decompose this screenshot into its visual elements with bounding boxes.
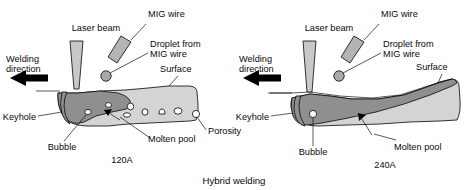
figure-root: Laser beam MIG wire Droplet from MIG wir… xyxy=(0,0,468,190)
label-droplet-line2-240a: MIG wire xyxy=(383,49,420,59)
bubble-120a xyxy=(85,109,91,114)
label-welding-direction-line2-240a: direction xyxy=(239,64,274,74)
laser-beam-240a xyxy=(303,41,316,92)
bubble-240a xyxy=(309,110,316,117)
mig-wire-240a xyxy=(341,36,364,63)
figure-caption: Hybrid welding xyxy=(203,175,266,186)
label-mig-wire-240a: MIG wire xyxy=(381,9,418,19)
label-welding-direction-line1-120a: Welding xyxy=(6,54,39,64)
mig-wire-120a xyxy=(108,36,131,63)
label-welding-direction-line2-120a: direction xyxy=(6,64,41,74)
droplet-240a xyxy=(334,71,344,81)
label-keyhole-240a: Keyhole xyxy=(236,112,269,122)
label-mig-wire-120a: MIG wire xyxy=(148,9,185,19)
leader-mig-wire-120a xyxy=(131,24,146,40)
label-laser-beam-120a: Laser beam xyxy=(72,23,121,33)
label-surface-240a: Surface xyxy=(416,62,448,72)
label-current-120a: 120A xyxy=(111,155,133,165)
label-droplet-line2-120a: MIG wire xyxy=(150,49,187,59)
droplet-120a xyxy=(101,71,111,81)
label-molten-pool-120a: Molten pool xyxy=(148,134,196,144)
label-laser-beam-240a: Laser beam xyxy=(305,23,354,33)
label-bubble-120a: Bubble xyxy=(48,142,77,152)
panel-120a: Laser beam MIG wire Droplet from MIG wir… xyxy=(3,9,242,165)
leader-mig-wire-240a xyxy=(364,24,379,40)
label-welding-direction-line1-240a: Welding xyxy=(239,54,272,64)
leader-surface-120a xyxy=(169,76,178,86)
panel-240a: Laser beam MIG wire Droplet from MIG wir… xyxy=(236,9,460,170)
label-surface-120a: Surface xyxy=(160,64,192,74)
leader-porosity-120a xyxy=(197,117,206,130)
label-bubble-240a: Bubble xyxy=(299,147,328,157)
hybrid-welding-diagram: Laser beam MIG wire Droplet from MIG wir… xyxy=(0,0,468,190)
leader-keyhole-240a xyxy=(271,113,293,116)
label-droplet-line1-240a: Droplet from xyxy=(383,39,434,49)
laser-beam-120a xyxy=(70,41,83,89)
label-molten-pool-240a: Molten pool xyxy=(394,142,442,152)
label-keyhole-120a: Keyhole xyxy=(3,112,36,122)
label-droplet-line1-120a: Droplet from xyxy=(150,39,201,49)
leader-molten-pool-240a xyxy=(374,134,396,140)
label-current-240a: 240A xyxy=(374,160,396,170)
label-porosity-120a: Porosity xyxy=(208,126,242,136)
leader-keyhole-120a xyxy=(38,112,62,116)
